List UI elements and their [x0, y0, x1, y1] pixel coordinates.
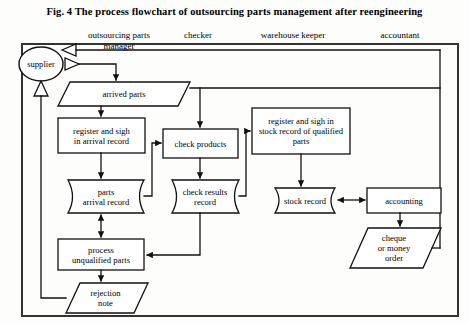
- flowchart-svg: [0, 0, 469, 323]
- arrow-supplier-to-manager: [65, 58, 79, 70]
- node-check-products-shape[interactable]: [163, 129, 238, 158]
- line-parts-record-to-check-products: [144, 143, 161, 196]
- node-stock-record-shape[interactable]: [275, 188, 335, 213]
- node-check-results-record-shape[interactable]: [172, 180, 239, 213]
- node-parts-arrival-record-shape[interactable]: [68, 180, 144, 213]
- node-rejection-note-shape[interactable]: [66, 283, 148, 313]
- arrow-rejection-to-supplier: [34, 81, 48, 96]
- arrow-manager-to-supplier: [62, 44, 76, 56]
- node-cheque-or-money-order-shape[interactable]: [350, 228, 441, 268]
- node-arrived-parts-shape[interactable]: [58, 82, 190, 106]
- node-accounting-shape[interactable]: [367, 188, 441, 213]
- node-register-stock-record-qualified-shape[interactable]: [252, 108, 350, 154]
- line-check-results-to-process-unqualified: [147, 213, 200, 255]
- node-process-unqualified-parts-shape[interactable]: [58, 239, 144, 270]
- line-supplier-to-arrived-parts: [79, 64, 116, 80]
- node-register-arrival-record-shape[interactable]: [58, 118, 145, 153]
- figure-canvas: Fig. 4 The process flowchart of outsourc…: [0, 0, 469, 323]
- node-supplier-shape[interactable]: [19, 47, 63, 81]
- line-check-results-to-register-stock: [239, 131, 250, 196]
